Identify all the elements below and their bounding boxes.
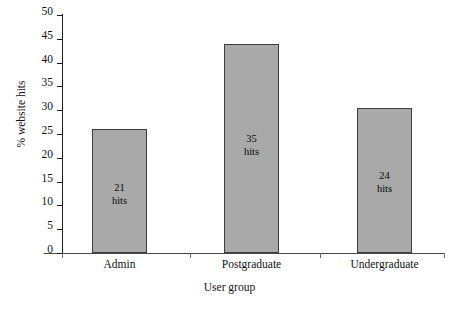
x-axis-line <box>44 253 444 254</box>
bar: 35 hits <box>224 44 279 253</box>
x-axis-tick-mark <box>320 253 321 258</box>
y-axis-tick-label: 40 <box>42 54 54 66</box>
y-axis-tick-mark <box>57 39 62 40</box>
y-axis-tick-label: 50 <box>42 6 54 18</box>
y-axis-tick-mark <box>57 134 62 135</box>
y-axis-tick-label: 45 <box>42 30 54 42</box>
y-axis-tick-label: 25 <box>42 125 54 137</box>
bar: 24 hits <box>357 108 412 253</box>
y-axis-tick-mark <box>57 182 62 183</box>
y-axis-tick-label: 0 <box>47 244 53 256</box>
y-axis-tick-label: 20 <box>42 149 54 161</box>
y-axis-tick-label: 5 <box>47 220 53 232</box>
y-axis-tick-mark <box>57 110 62 111</box>
y-axis-tick-mark <box>57 63 62 64</box>
y-axis-tick-mark <box>57 86 62 87</box>
x-axis-category-label: Postgraduate <box>192 258 312 270</box>
y-axis-line <box>62 14 63 254</box>
y-axis-tick-mark <box>57 229 62 230</box>
bar: 21 hits <box>92 129 147 253</box>
y-axis-title: % website hits <box>15 49 27 179</box>
y-axis-tick-mark <box>57 158 62 159</box>
bar-data-label: 24 hits <box>358 169 411 195</box>
chart-screenshot: 05101520253035404550 21 hits35 hits24 hi… <box>0 0 459 310</box>
y-axis-tick-label: 35 <box>42 77 54 89</box>
y-axis-tick-label: 10 <box>42 196 54 208</box>
x-axis-title: User group <box>0 281 459 293</box>
y-axis-tick-mark <box>57 15 62 16</box>
x-axis-category-label: Undergraduate <box>325 258 445 270</box>
y-axis-tick-mark <box>57 205 62 206</box>
x-axis-category-label: Admin <box>60 258 180 270</box>
y-axis-tick-label: 15 <box>42 173 54 185</box>
bar-data-label: 21 hits <box>93 181 146 207</box>
bar-data-label: 35 hits <box>225 132 278 158</box>
y-axis-tick-label: 30 <box>42 101 54 113</box>
